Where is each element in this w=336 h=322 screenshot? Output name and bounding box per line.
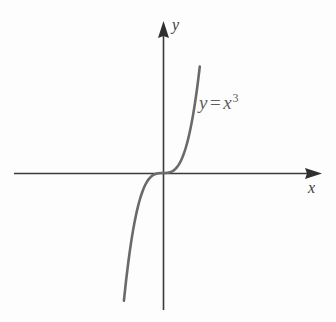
equation-variable: x <box>223 92 232 113</box>
x-axis-label: x <box>308 180 315 196</box>
curve-equation-label: y=x3 <box>199 93 239 112</box>
y-axis-label: y <box>172 17 179 33</box>
y-axis-arrowhead-icon <box>158 21 169 38</box>
equation-equals-sign: = <box>208 92 223 113</box>
equation-exponent: 3 <box>232 91 239 105</box>
curve-group <box>124 67 200 301</box>
equation-left-side: y <box>199 92 208 113</box>
axes-group <box>14 21 322 310</box>
graph-canvas <box>0 0 336 322</box>
cubic-curve-path <box>124 67 200 301</box>
cubic-function-figure: y x y=x3 <box>0 0 336 322</box>
x-axis-arrowhead-icon <box>305 168 322 179</box>
